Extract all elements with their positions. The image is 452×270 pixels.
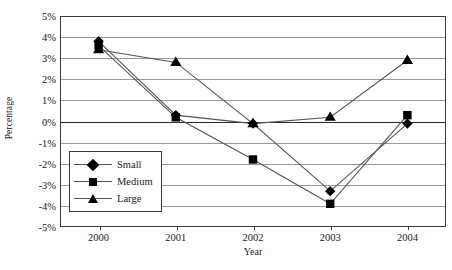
chart-figure: Percentage 5%4%3%2%1%0%-1%-2%-3%-4%-5% 2… (0, 0, 452, 270)
y-axis-tick-label: -4% (39, 200, 57, 211)
y-axis-tick-label: -5% (39, 222, 57, 233)
x-axis-tick-label: 2002 (243, 232, 264, 243)
gridline (61, 79, 445, 80)
zero-gridline (61, 122, 445, 123)
y-axis-tick-label: 5% (42, 11, 56, 22)
legend-marker-square-icon (74, 175, 112, 189)
legend-label: Small (117, 159, 142, 170)
legend-marker-triangle-icon (74, 192, 112, 206)
y-axis-tick-label: -2% (39, 158, 57, 169)
y-axis-tick-label: 2% (42, 74, 56, 85)
x-axis-tick-label: 2001 (165, 232, 186, 243)
x-axis-title: Year (60, 246, 446, 257)
chart-legend: SmallMediumLarge (69, 151, 162, 212)
legend-item-medium: Medium (74, 173, 153, 190)
y-axis-tick-label: 1% (42, 95, 56, 106)
y-axis-tick-label: -1% (39, 137, 57, 148)
diamond-icon (87, 158, 100, 171)
legend-item-large: Large (74, 190, 153, 207)
y-axis-tick-label: 3% (42, 53, 56, 64)
legend-marker-diamond-icon (74, 158, 112, 172)
y-axis-tick-label: 4% (42, 32, 56, 43)
square-icon (89, 178, 97, 186)
y-axis-tick-label: -3% (39, 179, 57, 190)
legend-item-small: Small (74, 156, 153, 173)
triangle-icon (88, 194, 98, 203)
y-axis-tick-labels: 5%4%3%2%1%0%-1%-2%-3%-4%-5% (16, 0, 56, 270)
x-axis-tick-label: 2000 (88, 232, 109, 243)
gridline (61, 143, 445, 144)
y-axis-tick-label: 0% (42, 116, 56, 127)
gridline (61, 100, 445, 101)
x-axis-tick-label: 2003 (320, 232, 341, 243)
gridline (61, 58, 445, 59)
x-axis-tick-label: 2004 (397, 232, 418, 243)
legend-label: Large (117, 193, 141, 204)
gridline (61, 37, 445, 38)
x-axis-tick-labels: 20002001200220032004 (60, 230, 446, 246)
legend-label: Medium (117, 176, 153, 187)
